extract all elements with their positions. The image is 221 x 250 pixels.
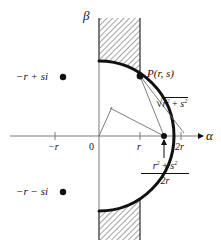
radicand-plus: +: [170, 98, 181, 109]
label-minus-r-plus-si: −r + si: [16, 71, 48, 82]
radicand: r2 + s2: [162, 97, 189, 109]
tick-label-minus-r: −r: [48, 142, 59, 152]
fraction-numerator: r2 + s2: [141, 159, 189, 174]
label-minus-r-minus-si: −r − si: [16, 186, 48, 197]
dot-minus-r-minus-si: [60, 189, 66, 195]
dot-minus-r-plus-si: [60, 74, 66, 80]
alpha-axis-label: α: [206, 129, 213, 142]
numerator-plus: +: [160, 160, 171, 171]
tick-label-origin: 0: [89, 142, 94, 152]
dot-P: [137, 73, 144, 80]
complex-plane-figure: β α −r 0 r 2r −r + si −r − si P(r, s) √r…: [0, 0, 221, 250]
radicand-term2-exponent: 2: [184, 97, 187, 104]
label-point-P: P(r, s): [147, 68, 174, 79]
beta-axis-label: β: [83, 9, 89, 22]
center-distance-fraction: r2 + s2 2r: [141, 159, 189, 186]
tick-label-2r: 2r: [175, 142, 184, 152]
numerator-term2-exponent: 2: [174, 159, 177, 166]
hypotenuse-expression: √r2 + s2: [156, 96, 188, 111]
figure-canvas: [0, 0, 221, 250]
fraction-denominator: 2r: [141, 174, 189, 187]
tick-label-r: r: [137, 142, 141, 152]
dot-circle-center: [161, 133, 167, 139]
